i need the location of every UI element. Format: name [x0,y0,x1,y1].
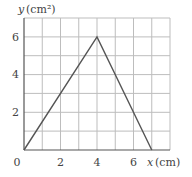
x-tick-2: 2 [57,156,64,169]
y-unit: (cm²) [26,3,56,16]
y-var: y [17,3,25,16]
y-axis-label: y (cm²) [17,3,56,16]
x-tick-4: 4 [94,156,101,169]
y-tick-6: 6 [12,31,19,44]
y-tick-2: 2 [12,106,19,119]
x-var: x [147,156,154,169]
chart: 0 2 4 6 2 4 6 y (cm²) x (cm) [0,0,192,177]
x-tick-6: 6 [130,156,137,169]
x-unit: (cm) [155,156,180,169]
origin-label: 0 [14,156,21,169]
x-axis-label: x (cm) [147,156,180,169]
y-tick-4: 4 [12,68,19,81]
